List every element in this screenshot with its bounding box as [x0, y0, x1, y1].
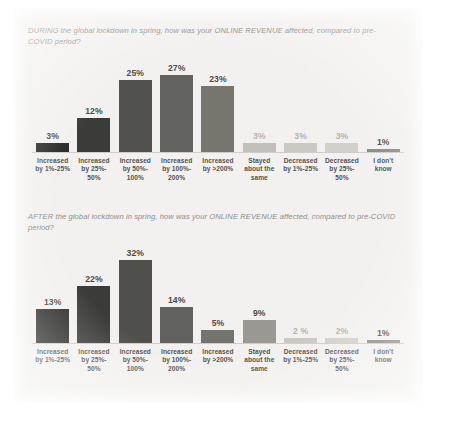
bar-value-label: 32%	[127, 248, 145, 258]
bar	[201, 86, 234, 152]
chart-panel-during: DURING the global lockdown in spring, ho…	[14, 8, 422, 198]
bar-value-label: 1%	[377, 137, 390, 147]
bar	[160, 307, 193, 343]
bar-column: 2%	[321, 238, 362, 343]
bar-column: 5%	[197, 238, 238, 343]
bar-column: 25%	[115, 52, 156, 152]
category-label: I don'tknow	[363, 157, 404, 182]
bar	[119, 260, 152, 343]
category-label: Increasedby 25%-50%	[73, 157, 114, 182]
bar-value-label: 2%	[336, 326, 349, 336]
bar-column: 3%	[280, 52, 321, 152]
bar	[160, 75, 193, 152]
bar-column: 12%	[73, 52, 114, 152]
bar-value-label: 27%	[168, 63, 186, 73]
category-label: Decreasedby 1%-25%	[280, 348, 321, 373]
category-label: Stayedabout thesame	[239, 157, 280, 182]
bar-value-label: 5%	[212, 318, 225, 328]
bar-column: 3%	[32, 52, 73, 152]
category-label: Increasedby >200%	[197, 348, 238, 373]
bar	[77, 118, 110, 152]
bar	[119, 80, 152, 152]
category-label: Increasedby 25%-50%	[73, 348, 114, 373]
chart-panel-after: AFTER the global lockdown in spring, how…	[14, 198, 422, 403]
bar-column: 23%	[197, 52, 238, 152]
bar-column: 14%	[156, 238, 197, 343]
bar	[243, 320, 276, 343]
category-label: Stayedabout thesame	[239, 348, 280, 373]
category-label: Increasedby 100%-200%	[156, 157, 197, 182]
bar-value-label: 3%	[336, 131, 349, 141]
bar-column: 9%	[239, 238, 280, 343]
bar	[36, 143, 69, 152]
bar	[325, 143, 358, 152]
bar-value-label: 23%	[209, 74, 227, 84]
category-label: Decreasedby 25%-50%	[321, 348, 362, 373]
bar-value-label: 14%	[168, 295, 186, 305]
category-labels-during: Increasedby 1%-25%Increasedby 25%-50%Inc…	[32, 157, 404, 182]
axis-line-after	[32, 343, 404, 344]
category-label: Decreasedby 25%-50%	[321, 157, 362, 182]
report-page: DURING the global lockdown in spring, ho…	[14, 8, 422, 403]
category-label: Increasedby 1%-25%	[32, 348, 73, 373]
bar-value-label: 13%	[44, 297, 62, 307]
category-labels-after: Increasedby 1%-25%Increasedby 25%-50%Inc…	[32, 348, 404, 373]
bar-value-label: 3%	[46, 131, 59, 141]
bar-value-label: 12%	[85, 106, 103, 116]
bars-after: 13%22%32%14%5%9%2 %2%1%	[32, 238, 404, 343]
bar-column: 27%	[156, 52, 197, 152]
bar-value-label: 1%	[377, 328, 390, 338]
bar-value-label: 3%	[253, 131, 266, 141]
bar	[201, 330, 234, 343]
bar	[77, 286, 110, 343]
bar	[243, 143, 276, 152]
category-label: I don'tknow	[363, 348, 404, 373]
category-label: Increasedby 50%-100%	[115, 157, 156, 182]
bar-column: 32%	[115, 238, 156, 343]
category-label: Increasedby 100%-200%	[156, 348, 197, 373]
category-label: Decreasedby 1%-25%	[280, 157, 321, 182]
bar-column: 1%	[363, 52, 404, 152]
axis-line-during	[32, 152, 404, 153]
bar-column: 1%	[363, 238, 404, 343]
bar-value-label: 2 %	[293, 326, 308, 336]
bar-value-label: 25%	[127, 68, 145, 78]
bar-column: 2 %	[280, 238, 321, 343]
bar	[36, 309, 69, 343]
category-label: Increasedby 1%-25%	[32, 157, 73, 182]
chart-title-during: DURING the global lockdown in spring, ho…	[28, 26, 400, 47]
bar-value-label: 22%	[85, 274, 103, 284]
bar-column: 22%	[73, 238, 114, 343]
bar-column: 3%	[321, 52, 362, 152]
chart-title-after: AFTER the global lockdown in spring, how…	[28, 212, 400, 233]
category-label: Increasedby 50%-100%	[115, 348, 156, 373]
bar-value-label: 9%	[253, 308, 266, 318]
bar-value-label: 3%	[294, 131, 307, 141]
category-label: Increasedby >200%	[197, 157, 238, 182]
bar	[284, 143, 317, 152]
bar-column: 13%	[32, 238, 73, 343]
bars-during: 3%12%25%27%23%3%3%3%1%	[32, 52, 404, 152]
bar-column: 3%	[239, 52, 280, 152]
